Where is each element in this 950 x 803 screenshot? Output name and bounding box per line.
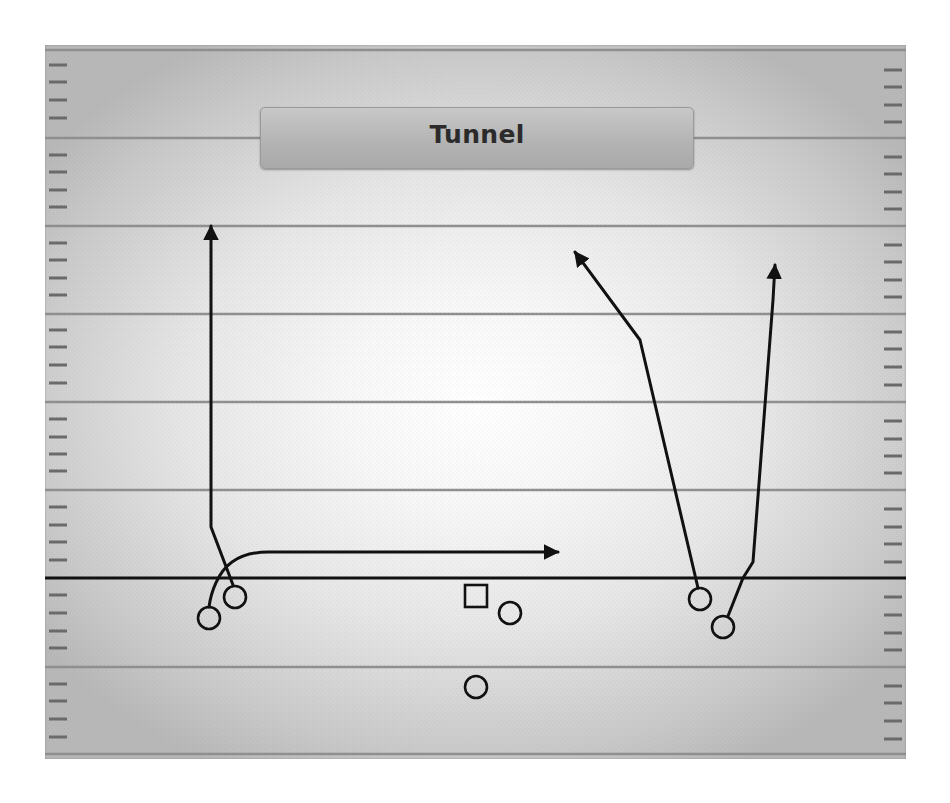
- play-title: Tunnel: [429, 120, 524, 149]
- play-title-plate: Tunnel: [260, 107, 694, 169]
